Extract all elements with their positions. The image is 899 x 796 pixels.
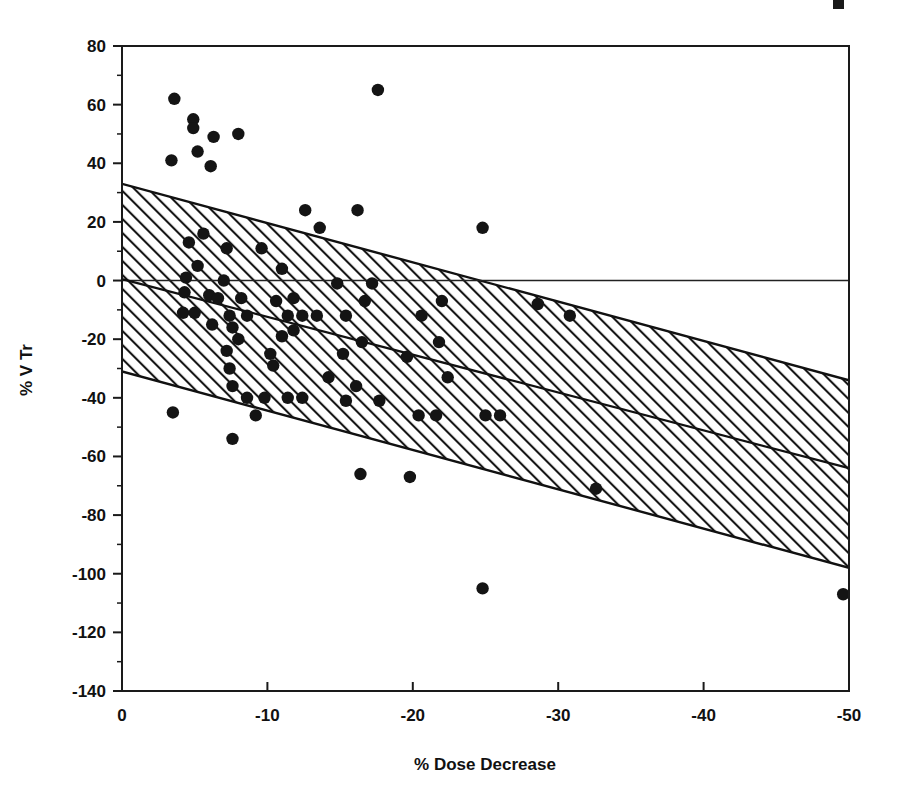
data-point bbox=[494, 409, 506, 421]
data-point bbox=[264, 348, 276, 360]
data-point bbox=[415, 310, 427, 322]
y-axis-tick-label: -80 bbox=[81, 506, 106, 525]
data-point bbox=[282, 310, 294, 322]
data-point bbox=[412, 409, 424, 421]
x-axis-tick-label: -20 bbox=[401, 706, 426, 725]
data-point bbox=[476, 582, 488, 594]
data-point bbox=[207, 131, 219, 143]
data-point bbox=[331, 277, 343, 289]
data-point bbox=[270, 295, 282, 307]
data-point bbox=[340, 310, 352, 322]
y-axis-tick-label: -20 bbox=[81, 330, 106, 349]
x-axis-title: % Dose Decrease bbox=[414, 755, 556, 774]
data-point bbox=[311, 310, 323, 322]
data-point bbox=[191, 260, 203, 272]
data-point bbox=[404, 471, 416, 483]
data-point bbox=[180, 271, 192, 283]
data-point bbox=[276, 263, 288, 275]
data-point bbox=[189, 307, 201, 319]
y-axis-title: % V Tr bbox=[17, 344, 36, 396]
x-axis-tick-label: -40 bbox=[691, 706, 716, 725]
y-axis-tick-label: -120 bbox=[72, 623, 106, 642]
data-point bbox=[204, 160, 216, 172]
data-point bbox=[837, 588, 849, 600]
data-point bbox=[479, 409, 491, 421]
data-point bbox=[218, 274, 230, 286]
data-point bbox=[183, 236, 195, 248]
data-point bbox=[177, 307, 189, 319]
data-point bbox=[250, 409, 262, 421]
data-point bbox=[220, 242, 232, 254]
data-point bbox=[442, 371, 454, 383]
data-point bbox=[212, 292, 224, 304]
data-point bbox=[276, 330, 288, 342]
data-point bbox=[226, 433, 238, 445]
data-point bbox=[436, 295, 448, 307]
data-point bbox=[314, 222, 326, 234]
data-point bbox=[366, 277, 378, 289]
data-point bbox=[178, 286, 190, 298]
data-point bbox=[232, 128, 244, 140]
data-point bbox=[564, 310, 576, 322]
y-axis-tick-label: -60 bbox=[81, 447, 106, 466]
data-point bbox=[296, 310, 308, 322]
data-point bbox=[532, 298, 544, 310]
data-point bbox=[167, 406, 179, 418]
data-point bbox=[299, 204, 311, 216]
data-point bbox=[223, 310, 235, 322]
data-point bbox=[255, 242, 267, 254]
x-axis-tick-label: -30 bbox=[546, 706, 571, 725]
data-point bbox=[165, 154, 177, 166]
data-point bbox=[168, 93, 180, 105]
x-axis-tick-label: -50 bbox=[837, 706, 862, 725]
data-point bbox=[220, 345, 232, 357]
data-point bbox=[223, 362, 235, 374]
data-point bbox=[206, 318, 218, 330]
data-point bbox=[191, 145, 203, 157]
y-axis-tick-label: 80 bbox=[87, 37, 106, 56]
data-point bbox=[296, 392, 308, 404]
scatter-chart-figure: 806040200-20-40-60-80-100-120-140 0-10-2… bbox=[0, 0, 899, 796]
y-axis-tick-label: 20 bbox=[87, 213, 106, 232]
data-point bbox=[287, 292, 299, 304]
data-point bbox=[197, 227, 209, 239]
x-axis-tick-label: -10 bbox=[255, 706, 280, 725]
data-point bbox=[322, 371, 334, 383]
y-axis-tick-label: -100 bbox=[72, 565, 106, 584]
data-point bbox=[590, 483, 602, 495]
data-point bbox=[235, 292, 247, 304]
y-axis-tick-label: -40 bbox=[81, 389, 106, 408]
data-point bbox=[433, 336, 445, 348]
data-point bbox=[337, 348, 349, 360]
data-point bbox=[267, 359, 279, 371]
data-point bbox=[241, 392, 253, 404]
data-point bbox=[373, 395, 385, 407]
data-point bbox=[430, 409, 442, 421]
data-point bbox=[226, 380, 238, 392]
chart-canvas: 806040200-20-40-60-80-100-120-140 0-10-2… bbox=[0, 0, 899, 796]
data-point bbox=[359, 295, 371, 307]
x-axis-tick-label: 0 bbox=[117, 706, 126, 725]
scan-artifact-mark bbox=[833, 0, 844, 9]
data-point bbox=[287, 324, 299, 336]
data-point bbox=[372, 84, 384, 96]
data-point bbox=[350, 380, 362, 392]
y-axis-tick-label: 0 bbox=[97, 272, 106, 291]
data-point bbox=[226, 321, 238, 333]
data-point bbox=[351, 204, 363, 216]
y-axis-tick-label: 40 bbox=[87, 154, 106, 173]
data-point bbox=[241, 310, 253, 322]
data-point bbox=[476, 222, 488, 234]
data-point bbox=[401, 351, 413, 363]
data-point bbox=[232, 333, 244, 345]
data-point bbox=[282, 392, 294, 404]
data-point bbox=[258, 392, 270, 404]
y-axis-tick-label: 60 bbox=[87, 96, 106, 115]
data-point bbox=[356, 336, 368, 348]
data-point bbox=[187, 122, 199, 134]
data-point bbox=[354, 468, 366, 480]
y-axis-tick-label: -140 bbox=[72, 682, 106, 701]
data-point bbox=[340, 395, 352, 407]
